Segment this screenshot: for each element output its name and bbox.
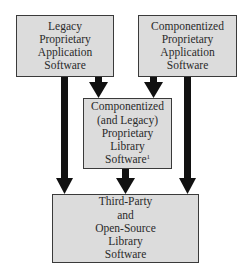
node-line: and <box>117 209 134 222</box>
node-line: (and Legacy) <box>97 114 158 127</box>
node-line: Software <box>44 59 86 72</box>
node-line: Software <box>105 153 147 165</box>
node-line: Componentized <box>91 100 164 113</box>
node-line: Proprietary <box>162 33 214 46</box>
arrow-componentized-to-proprietary-lib <box>144 77 163 98</box>
footnote-marker: 1 <box>147 153 151 161</box>
node-line: Software <box>167 59 209 72</box>
node-line: Library <box>108 235 142 248</box>
node-legacy-proprietary-application-software: Legacy Proprietary Application Software <box>16 15 114 77</box>
node-line: Application <box>38 46 92 59</box>
node-line: Application <box>160 46 214 59</box>
arrow-legacy-to-proprietary-lib <box>89 77 108 98</box>
arrow-legacy-to-thirdparty <box>56 77 73 194</box>
arrow-componentized-to-thirdparty <box>179 77 196 194</box>
node-line: Third-Party <box>99 195 153 208</box>
node-line-with-footnote: Software1 <box>105 153 150 166</box>
node-line: Legacy <box>48 20 82 33</box>
node-line: Library <box>110 140 144 153</box>
node-third-party-open-source-library-software: Third-Party and Open-Source Library Soft… <box>52 194 199 263</box>
node-proprietary-library-software: Componentized (and Legacy) Proprietary L… <box>83 98 172 169</box>
arrow-proprietary-lib-to-thirdparty <box>116 169 135 194</box>
node-line: Proprietary <box>102 127 154 140</box>
node-componentized-proprietary-application-software: Componentized Proprietary Application So… <box>138 15 237 77</box>
node-line: Software <box>105 248 147 261</box>
node-line: Componentized <box>151 20 224 33</box>
node-line: Proprietary <box>39 33 91 46</box>
node-line: Open-Source <box>95 222 156 235</box>
